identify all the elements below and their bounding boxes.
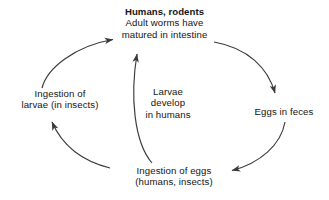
- node-larvae-ingestion-line-2: larvae (in insects): [0, 99, 120, 110]
- node-eggs-ingestion-line-1: Ingestion of eggs: [104, 165, 244, 176]
- node-humans-rodents: Humans, rodents Adult worms have matured…: [0, 6, 329, 40]
- node-larvae-develop-line-3: in humans: [128, 109, 208, 120]
- node-larvae-ingestion-line-1: Ingestion of: [0, 88, 120, 99]
- node-larvae-develop-line-2: develop: [128, 97, 208, 108]
- node-host-line-2: Adult worms have: [0, 17, 329, 28]
- node-eggs-ingestion-line-2: (humans, insects): [104, 176, 244, 187]
- node-eggs-in-feces: Eggs in feces: [239, 106, 329, 117]
- node-host-line-1: Humans, rodents: [0, 6, 329, 17]
- life-cycle-diagram: Humans, rodents Adult worms have matured…: [0, 0, 329, 200]
- node-ingestion-of-larvae: Ingestion of larvae (in insects): [0, 88, 120, 111]
- arrow-larvae-ingestion-to-host: [42, 40, 113, 89]
- node-eggs-feces-line-1: Eggs in feces: [239, 106, 329, 117]
- node-ingestion-of-eggs: Ingestion of eggs (humans, insects): [104, 165, 244, 188]
- node-host-line-3: matured in intestine: [0, 29, 329, 40]
- arrow-host-to-eggs-feces: [214, 42, 275, 93]
- node-larvae-develop-in-humans: Larvae develop in humans: [128, 86, 208, 120]
- arrow-eggs-ingestion-to-larvae-ingestion: [52, 122, 110, 168]
- arrow-eggs-feces-to-eggs-ingestion: [232, 122, 285, 171]
- node-larvae-develop-line-1: Larvae: [128, 86, 208, 97]
